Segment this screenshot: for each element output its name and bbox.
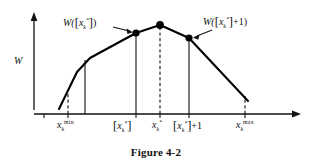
figure-container: W W([xk*]) W([xk*]+1) xkmin [xk*] xk* [x… [0, 0, 312, 167]
annotation-right-sub: k [223, 23, 226, 29]
annotation-left: W([xk*]) [63, 16, 96, 29]
y-axis-label-text: W [14, 55, 22, 66]
annotation-right-bracket-close: ] [229, 15, 233, 29]
y-axis [31, 12, 38, 110]
annotation-right-suffix: ) [244, 16, 247, 27]
annotation-left-suffix: ) [93, 17, 96, 28]
tick-label-xmin-sub: k [61, 126, 64, 132]
tick-label-floor: [xk*] [113, 119, 131, 132]
vertical-solid-lines [85, 33, 189, 114]
annotation-right-prefix: W( [203, 16, 215, 27]
marker-floor [132, 29, 139, 36]
tick-label-xstar-sub: k [156, 126, 159, 132]
annotation-left-prefix: W( [63, 17, 75, 28]
tick-label-floor-bracket-close: ] [127, 119, 131, 133]
tick-label-floor-sub: k [122, 127, 125, 133]
tick-label-floor-plus-one: [xk*]+1 [173, 119, 202, 132]
y-axis-label: W [14, 56, 22, 66]
tick-label-xstar-sup: * [159, 119, 162, 125]
tick-label-xmax-sup: max [243, 119, 254, 125]
tick-label-xmin: xkmin [57, 120, 74, 130]
annotation-left-bracket-close: ] [89, 16, 93, 30]
annotation-right: W([xk*]+1) [203, 15, 247, 28]
tick-label-xmax: xkmax [236, 120, 254, 130]
annotation-right-plus: +1 [233, 16, 244, 27]
figure-caption: Figure 4-2 [0, 146, 312, 158]
figure-chart [0, 0, 312, 167]
marker-floor-plus-one [185, 34, 192, 41]
tick-label-floorplus-sub: k [182, 127, 185, 133]
tick-label-xstar: xk* [152, 120, 162, 130]
tick-label-xmin-sup: min [64, 119, 74, 125]
weight-curve [59, 25, 248, 109]
tick-label-floorplus-plus: +1 [191, 120, 202, 131]
annotation-right-bracket-open: [ [215, 15, 219, 29]
tick-label-xmax-sub: k [240, 126, 243, 132]
tick-label-floorplus-bracket-open: [ [173, 119, 177, 133]
annotation-left-bracket-open: [ [75, 16, 79, 30]
x-axis [34, 111, 301, 118]
annotation-left-sub: k [83, 24, 86, 30]
tick-label-floorplus-bracket-close: ] [187, 119, 191, 133]
marker-xstar-peak [156, 21, 164, 29]
tick-label-floor-bracket-open: [ [113, 119, 117, 133]
